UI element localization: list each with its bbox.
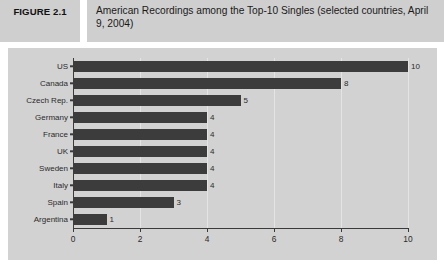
bar-row: France4 [73, 129, 408, 140]
figure-number-block: FIGURE 2.1 [0, 0, 80, 42]
bar-row: Sweden4 [73, 163, 408, 174]
header-divider [80, 0, 87, 42]
x-axis-tick [140, 228, 141, 232]
figure-title-block: American Recordings among the Top-10 Sin… [87, 0, 444, 42]
bar-value-label: 4 [210, 130, 214, 139]
plot-area: US10Canada8Czech Rep.5Germany4France4UK4… [73, 58, 408, 228]
bar-row: Italy4 [73, 180, 408, 191]
bar-value-label: 5 [244, 96, 248, 105]
bar-value-label: 4 [210, 113, 214, 122]
x-axis-tick-label: 0 [71, 234, 76, 244]
x-axis-tick [408, 228, 409, 232]
bar-value-label: 3 [177, 198, 181, 207]
bar[interactable] [73, 180, 207, 191]
category-label: Germany [35, 113, 68, 122]
x-axis-tick-label: 4 [205, 234, 210, 244]
category-label: Sweden [39, 164, 68, 173]
bar-value-label: 10 [411, 62, 420, 71]
x-axis-tick-label: 8 [339, 234, 344, 244]
bar-row: Czech Rep.5 [73, 95, 408, 106]
category-label: Italy [53, 181, 68, 190]
figure-title: American Recordings among the Top-10 Sin… [96, 4, 434, 30]
gridline [408, 58, 409, 228]
category-label: Spain [48, 198, 68, 207]
x-axis-tick [73, 228, 74, 232]
x-axis-line [73, 228, 409, 229]
x-axis-tick-label: 10 [403, 234, 412, 244]
figure-header: FIGURE 2.1 American Recordings among the… [0, 0, 444, 42]
x-axis-tick [207, 228, 208, 232]
x-axis-tick-label: 2 [138, 234, 143, 244]
category-label: France [43, 130, 68, 139]
x-axis-tick [341, 228, 342, 232]
bar[interactable] [73, 61, 408, 72]
bar-row: Germany4 [73, 112, 408, 123]
category-label: Czech Rep. [26, 96, 68, 105]
bar-row: Spain3 [73, 197, 408, 208]
bar[interactable] [73, 112, 207, 123]
bar-value-label: 4 [210, 147, 214, 156]
category-label: UK [57, 147, 68, 156]
category-label: Canada [40, 79, 68, 88]
bar[interactable] [73, 146, 207, 157]
bar-value-label: 8 [344, 79, 348, 88]
bar-row: UK4 [73, 146, 408, 157]
chart-panel: US10Canada8Czech Rep.5Germany4France4UK4… [8, 48, 437, 260]
figure-number-label: FIGURE 2.1 [13, 6, 66, 17]
bar[interactable] [73, 129, 207, 140]
bar[interactable] [73, 95, 241, 106]
x-axis-tick-label: 6 [272, 234, 277, 244]
bar-row: Canada8 [73, 78, 408, 89]
bar[interactable] [73, 197, 174, 208]
bar-value-label: 4 [210, 164, 214, 173]
figure-container: FIGURE 2.1 American Recordings among the… [0, 0, 444, 268]
bar-row: US10 [73, 61, 408, 72]
bar[interactable] [73, 78, 341, 89]
x-axis-tick [274, 228, 275, 232]
bar-value-label: 4 [210, 181, 214, 190]
bar[interactable] [73, 214, 107, 225]
category-label: US [57, 62, 68, 71]
bar-value-label: 1 [110, 215, 114, 224]
bar-row: Argentina1 [73, 214, 408, 225]
bar[interactable] [73, 163, 207, 174]
category-label: Argentina [34, 215, 68, 224]
